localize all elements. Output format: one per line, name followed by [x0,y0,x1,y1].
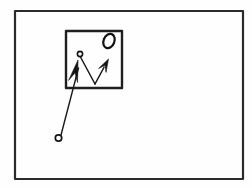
figure-svg [0,0,252,188]
figure-canvas: Line drawing figure [0,0,252,188]
inner-node-circle [77,51,82,56]
page-background [0,0,252,188]
outer-node-circle [55,135,61,141]
